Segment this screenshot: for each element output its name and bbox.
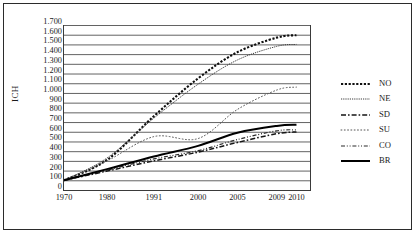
y-tick-label: 400 xyxy=(50,144,62,152)
x-tick-label: 2000 xyxy=(190,194,207,202)
x-tick-label: 1970 xyxy=(56,194,73,202)
x-tick-label: 1980 xyxy=(99,194,116,202)
legend-item-ne[interactable]: NE xyxy=(339,91,413,106)
y-axis-title: ICH xyxy=(10,62,20,102)
y-tick-label: 1.200 xyxy=(43,66,62,74)
legend-item-su[interactable]: SU xyxy=(339,122,413,137)
legend-label: CO xyxy=(379,141,391,150)
y-tick-label: 1.700 xyxy=(43,18,62,26)
x-tick-label: 2005 xyxy=(229,194,246,202)
y-tick-label: 1.100 xyxy=(43,76,62,84)
legend-item-co[interactable]: CO xyxy=(339,138,413,153)
y-tick-label: 1.400 xyxy=(43,47,62,55)
y-tick-label: 0 xyxy=(58,183,62,191)
legend-item-no[interactable]: NO xyxy=(339,76,413,91)
chart-legend: NONESDSUCOBR xyxy=(339,76,413,172)
legend-item-sd[interactable]: SD xyxy=(339,107,413,122)
y-tick-label: 700 xyxy=(50,115,62,123)
y-tick-label: 100 xyxy=(50,173,62,181)
y-tick-label: 900 xyxy=(50,95,62,103)
legend-key-icon xyxy=(339,107,373,122)
y-tick-label: 1.500 xyxy=(43,37,62,45)
y-tick-label: 1.000 xyxy=(43,86,62,94)
legend-key-icon xyxy=(339,153,373,168)
y-tick-label: 1.300 xyxy=(43,57,62,65)
x-tick-label: 2009 xyxy=(268,194,285,202)
y-tick-label: 500 xyxy=(50,134,62,142)
series-canvas xyxy=(64,25,310,190)
legend-key-icon xyxy=(339,91,373,106)
x-axis-tick-labels: 1970198019912000200520092010 xyxy=(63,194,313,208)
legend-key-icon xyxy=(339,138,373,153)
series-line-br xyxy=(64,125,296,181)
chart-frame: ICH 1.7001.6001.5001.4001.3001.2001.1001… xyxy=(3,3,412,230)
legend-item-br[interactable]: BR xyxy=(339,153,413,168)
series-line-sd xyxy=(64,132,296,180)
x-tick-label: 1991 xyxy=(145,194,162,202)
legend-label: BR xyxy=(379,156,390,165)
legend-key-icon xyxy=(339,122,373,137)
x-tick-label: 2010 xyxy=(288,194,305,202)
y-tick-label: 200 xyxy=(50,163,62,171)
y-tick-label: 800 xyxy=(50,105,62,113)
legend-label: SD xyxy=(379,110,390,119)
y-axis-tick-labels: 1.7001.6001.5001.4001.3001.2001.1001.000… xyxy=(22,22,62,192)
y-tick-label: 300 xyxy=(50,154,62,162)
legend-key-icon xyxy=(339,76,373,91)
y-tick-label: 1.600 xyxy=(43,28,62,36)
series-line-ne xyxy=(64,44,296,180)
legend-label: NO xyxy=(379,79,391,88)
legend-label: SU xyxy=(379,125,390,134)
legend-label: NE xyxy=(379,94,390,103)
plot-area xyxy=(63,25,311,191)
y-tick-label: 600 xyxy=(50,125,62,133)
series-line-no xyxy=(64,35,296,180)
